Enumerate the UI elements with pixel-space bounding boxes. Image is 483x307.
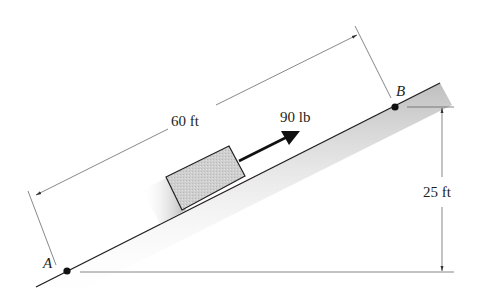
point-a-dot [63, 267, 70, 274]
height-label: 25 ft [423, 184, 452, 200]
point-a-label: A [42, 255, 53, 271]
force-label: 90 lb [280, 109, 310, 125]
point-b-label: B [396, 83, 405, 99]
incline-shading [36, 83, 452, 307]
incline-surface [36, 83, 440, 287]
point-b-dot [391, 103, 398, 110]
length-label: 60 ft [171, 113, 200, 129]
force-arrow [239, 131, 300, 161]
incline-diagram: A B 60 ft 90 lb 25 ft [0, 0, 483, 307]
